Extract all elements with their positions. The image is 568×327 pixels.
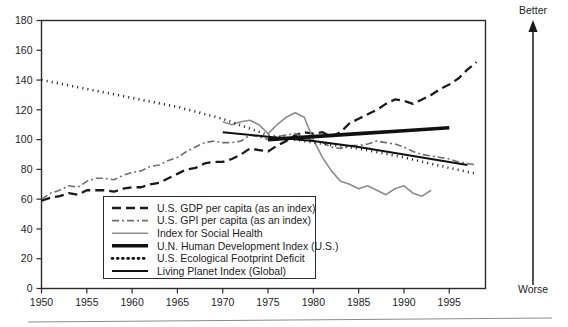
x-tick-label: 1975 (256, 296, 280, 308)
direction-arrow (528, 20, 537, 285)
worse-label: Worse (518, 283, 548, 295)
y-tick-label: 0 (27, 282, 33, 294)
legend-label-2: Index for Social Health (157, 227, 263, 239)
x-tick-label: 1960 (120, 296, 144, 308)
y-tick-label: 160 (15, 44, 33, 56)
line-chart-svg: 020406080100120140160180 195019551960196… (0, 0, 568, 327)
y-axis-ticks (37, 21, 42, 289)
legend-label-0: U.S. GDP per capita (as an index) (157, 202, 316, 214)
y-tick-label: 80 (21, 163, 33, 175)
chart-figure: 020406080100120140160180 195019551960196… (0, 0, 568, 327)
better-label: Better (519, 4, 548, 16)
y-tick-label: 100 (15, 133, 33, 145)
legend-label-1: U.S. GPI per capita (as an index) (157, 214, 311, 226)
y-tick-label: 140 (15, 74, 33, 86)
legend: U.S. GDP per capita (as an index)U.S. GP… (104, 197, 339, 279)
y-tick-label: 40 (21, 223, 33, 235)
x-axis-tick-labels: 1950195519601965197019751980198519901995 (30, 296, 461, 308)
x-tick-label: 1950 (30, 296, 54, 308)
x-tick-label: 1985 (347, 296, 371, 308)
y-tick-label: 180 (15, 14, 33, 26)
x-tick-label: 1990 (392, 296, 416, 308)
page-rule (28, 318, 552, 322)
y-tick-label: 20 (21, 252, 33, 264)
x-tick-label: 1980 (302, 296, 326, 308)
x-tick-label: 1970 (211, 296, 235, 308)
data-series-group (42, 62, 477, 200)
series-line-5 (223, 132, 468, 165)
y-tick-label: 60 (21, 193, 33, 205)
y-axis-tick-labels: 020406080100120140160180 (15, 14, 33, 294)
legend-label-4: U.S. Ecological Footprint Deficit (157, 252, 305, 264)
series-line-1 (42, 134, 477, 200)
legend-label-3: U.N. Human Development Index (U.S.) (157, 240, 338, 252)
y-tick-label: 120 (15, 104, 33, 116)
x-tick-label: 1955 (75, 296, 99, 308)
x-tick-label: 1965 (166, 296, 190, 308)
x-axis-ticks (42, 289, 450, 294)
series-line-4 (42, 80, 477, 174)
x-tick-label: 1995 (438, 296, 462, 308)
legend-label-5: Living Planet Index (Global) (157, 265, 286, 277)
